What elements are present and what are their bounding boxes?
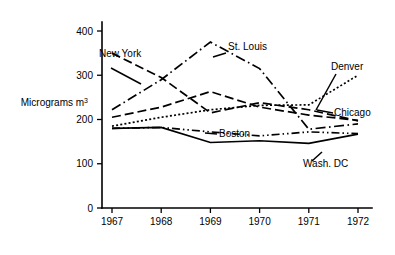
x-tick-label: 1967: [101, 216, 124, 227]
series-label-st-louis: St. Louis: [228, 41, 267, 52]
series-label-new-york: New York: [99, 48, 142, 59]
x-tick-label: 1972: [347, 216, 370, 227]
series-label-chicago: Chicago: [334, 107, 371, 118]
leader-line-boston: [205, 133, 217, 134]
series-label-boston: Boston: [219, 128, 250, 139]
leader-line-st-louis: [213, 53, 226, 57]
y-tick-label: 100: [76, 158, 93, 169]
y-axis-title: Micrograms m3: [21, 97, 88, 109]
chart-leader-lines: [111, 53, 336, 161]
x-tick-label: 1969: [199, 216, 222, 227]
leader-line-denver: [316, 74, 336, 110]
series-label-denver: Denver: [331, 61, 364, 72]
series-line-chicago: [112, 92, 358, 121]
x-tick-label: 1970: [248, 216, 271, 227]
series-label-wash-dc: Wash. DC: [303, 158, 348, 169]
x-axis-ticks: 196719681969197019711972: [101, 208, 370, 227]
x-tick-label: 1971: [298, 216, 321, 227]
y-tick-label: 200: [76, 114, 93, 125]
y-tick-label: 0: [87, 203, 93, 214]
chart-series-labels: New YorkSt. LouisDenverChicagoBostonWash…: [99, 41, 371, 169]
y-tick-label: 400: [76, 26, 93, 37]
leader-line-new-york: [111, 68, 141, 84]
line-chart: 0100200300400 196719681969197019711972 M…: [0, 0, 395, 255]
x-tick-label: 1968: [150, 216, 173, 227]
y-tick-label: 300: [76, 70, 93, 81]
chart-canvas: 0100200300400 196719681969197019711972 M…: [0, 0, 395, 255]
